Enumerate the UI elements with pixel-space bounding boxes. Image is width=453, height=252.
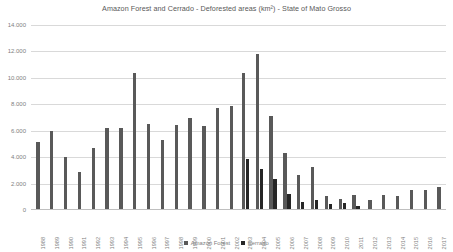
- chart-title: Amazon Forest and Cerrado - Deforested a…: [0, 4, 453, 13]
- bar-amazon-forest[interactable]: [230, 106, 233, 210]
- bar-amazon-forest[interactable]: [269, 116, 272, 210]
- bar-amazon-forest[interactable]: [64, 157, 67, 210]
- bar-amazon-forest[interactable]: [410, 190, 413, 210]
- x-axis-line: [31, 209, 446, 210]
- bar-amazon-forest[interactable]: [92, 148, 95, 210]
- bar-group[interactable]: [405, 25, 419, 210]
- legend-entry[interactable]: Amazon Forest: [184, 240, 230, 246]
- bar-group[interactable]: [197, 25, 211, 210]
- bar-group[interactable]: [86, 25, 100, 210]
- bar-amazon-forest[interactable]: [119, 128, 122, 210]
- legend-swatch-icon: [241, 241, 245, 245]
- bar-amazon-forest[interactable]: [256, 54, 259, 210]
- bar-amazon-forest[interactable]: [78, 172, 81, 210]
- bar-amazon-forest[interactable]: [133, 73, 136, 210]
- bar-group[interactable]: [211, 25, 225, 210]
- bar-amazon-forest[interactable]: [311, 167, 314, 210]
- bar-group[interactable]: [418, 25, 432, 210]
- bar-group[interactable]: [322, 25, 336, 210]
- chart-legend: Amazon ForestCerrado: [0, 240, 453, 246]
- bar-amazon-forest[interactable]: [325, 196, 328, 210]
- bar-amazon-forest[interactable]: [216, 108, 219, 210]
- bar-cerrado[interactable]: [246, 159, 249, 210]
- bar-amazon-forest[interactable]: [175, 125, 178, 210]
- bar-cerrado[interactable]: [287, 194, 290, 210]
- bar-amazon-forest[interactable]: [352, 195, 355, 210]
- bar-group[interactable]: [252, 25, 266, 210]
- bar-amazon-forest[interactable]: [283, 153, 286, 210]
- bars-layer: [31, 25, 446, 210]
- bar-group[interactable]: [349, 25, 363, 210]
- bar-group[interactable]: [432, 25, 446, 210]
- bar-group[interactable]: [73, 25, 87, 210]
- bar-group[interactable]: [128, 25, 142, 210]
- bar-amazon-forest[interactable]: [50, 131, 53, 210]
- bar-group[interactable]: [59, 25, 73, 210]
- legend-label: Amazon Forest: [191, 240, 230, 246]
- bar-group[interactable]: [183, 25, 197, 210]
- bar-cerrado[interactable]: [273, 179, 276, 210]
- bar-group[interactable]: [308, 25, 322, 210]
- bar-group[interactable]: [335, 25, 349, 210]
- bar-group[interactable]: [294, 25, 308, 210]
- bar-group[interactable]: [225, 25, 239, 210]
- legend-entry[interactable]: Cerrado: [241, 240, 268, 246]
- bar-amazon-forest[interactable]: [382, 195, 385, 210]
- y-axis-tick-label: 2.000: [11, 181, 26, 187]
- y-axis-tick-label: 0: [23, 207, 26, 213]
- plot-area: [31, 25, 446, 210]
- bar-group[interactable]: [142, 25, 156, 210]
- bar-amazon-forest[interactable]: [161, 140, 164, 210]
- bar-group[interactable]: [377, 25, 391, 210]
- y-axis: 14.00012.00010.0008.0006.0004.0002.0000: [0, 25, 31, 210]
- bar-group[interactable]: [100, 25, 114, 210]
- y-axis-tick-label: 10.000: [8, 75, 26, 81]
- bar-amazon-forest[interactable]: [105, 128, 108, 210]
- y-axis-tick-label: 14.000: [8, 22, 26, 28]
- y-axis-tick-label: 6.000: [11, 128, 26, 134]
- legend-swatch-icon: [184, 241, 188, 245]
- bar-amazon-forest[interactable]: [297, 175, 300, 210]
- y-axis-tick-label: 8.000: [11, 101, 26, 107]
- bar-amazon-forest[interactable]: [188, 118, 191, 210]
- bar-amazon-forest[interactable]: [437, 187, 440, 210]
- bar-cerrado[interactable]: [260, 169, 263, 210]
- bar-amazon-forest[interactable]: [36, 142, 39, 210]
- bar-group[interactable]: [266, 25, 280, 210]
- bar-group[interactable]: [45, 25, 59, 210]
- bar-amazon-forest[interactable]: [202, 126, 205, 210]
- bar-group[interactable]: [31, 25, 45, 210]
- y-axis-tick-label: 4.000: [11, 154, 26, 160]
- bar-group[interactable]: [114, 25, 128, 210]
- bar-group[interactable]: [239, 25, 253, 210]
- bar-group[interactable]: [156, 25, 170, 210]
- bar-group[interactable]: [169, 25, 183, 210]
- x-axis: 1988198919901991199219931994199519961997…: [31, 211, 446, 239]
- bar-amazon-forest[interactable]: [424, 190, 427, 210]
- bar-amazon-forest[interactable]: [242, 73, 245, 210]
- legend-label: Cerrado: [248, 240, 269, 246]
- bar-amazon-forest[interactable]: [147, 124, 150, 210]
- y-axis-tick-label: 12.000: [8, 48, 26, 54]
- bar-group[interactable]: [280, 25, 294, 210]
- bar-group[interactable]: [391, 25, 405, 210]
- bar-group[interactable]: [363, 25, 377, 210]
- chart-container: Amazon Forest and Cerrado - Deforested a…: [0, 0, 453, 252]
- bar-amazon-forest[interactable]: [396, 196, 399, 210]
